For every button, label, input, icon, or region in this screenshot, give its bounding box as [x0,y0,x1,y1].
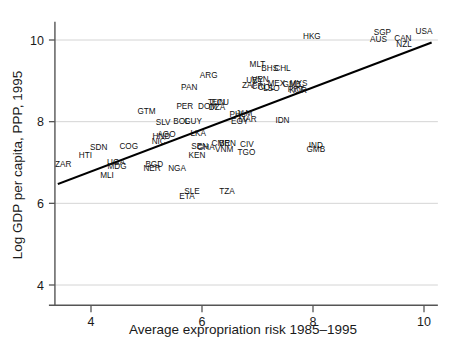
y-tick-label-10: 10 [30,34,44,48]
x-axis-title: Average expropriation risk 1985–1995 [129,322,357,337]
point-label-sdn: SDN [90,143,107,152]
point-label-kor: KOR [289,86,307,95]
point-label-ecu: ECU [212,98,229,107]
chart-canvas: ZARHTISDNMLIUGAMDGCOGNERBGDNICHNDAGOSLVG… [0,0,459,346]
point-label-mli: MLI [100,171,114,180]
point-label-chl: CHL [274,64,291,73]
point-label-gmb: GMB [306,145,325,154]
point-label-nga: NGA [168,164,186,173]
point-label-slv: SLV [156,118,171,127]
point-label-mar: MAR [238,115,256,124]
point-label-lka: LKA [190,129,206,138]
point-label-mdg: MDG [108,162,127,171]
point-label-vnm: VNM [215,145,233,154]
x-tick-label-10: 10 [417,315,431,329]
y-tick-label-4: 4 [37,279,44,293]
point-label-tgo: TGO [238,148,256,157]
point-label-arg: ARG [200,71,218,80]
y-axis-title: Log GDP per capita, PPP, 1995 [10,71,25,260]
point-label-gtm: GTM [137,107,155,116]
expropriation-risk-scatter-chart: ZARHTISDNMLIUGAMDGCOGNERBGDNICHNDAGOSLVG… [0,0,459,346]
point-label-idn: IDN [275,116,289,125]
y-tick-label-6: 6 [37,197,44,211]
point-label-sle: SLE [184,187,200,196]
point-label-per: PER [176,102,193,111]
point-label-aus: AUS [370,35,387,44]
point-label-ken: KEN [189,151,206,160]
point-label-cog: COG [119,142,138,151]
data-point-labels: ZARHTISDNMLIUGAMDGCOGNERBGDNICHNDAGOSLVG… [55,27,433,201]
point-label-guy: GUY [184,117,202,126]
point-label-pan: PAN [181,83,197,92]
y-tick-label-8: 8 [37,115,44,129]
point-label-bgd: BGD [145,160,163,169]
point-label-usa: USA [416,27,433,36]
x-tick-label-4: 4 [88,315,95,329]
point-label-zar: ZAR [55,160,71,169]
point-label-tza: TZA [219,187,235,196]
point-label-hkg: HKG [303,32,321,41]
point-label-ago: AGO [157,130,175,139]
point-label-nzl: NZL [396,40,412,49]
